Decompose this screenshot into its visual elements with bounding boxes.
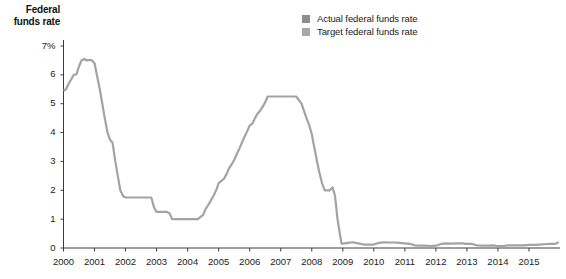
x-tick-label: 2015 — [509, 256, 549, 267]
data-series-line — [64, 59, 559, 246]
y-tick-label: 2 — [30, 184, 56, 195]
data-series-group — [64, 59, 559, 246]
y-tick-label: 1 — [30, 213, 56, 224]
y-tick-label: 6 — [30, 68, 56, 79]
y-tick-label: 7% — [30, 40, 56, 51]
line-chart-plot — [0, 0, 566, 279]
x-axis-ticks — [64, 248, 529, 252]
axis-lines — [64, 40, 561, 248]
y-tick-label: 4 — [30, 126, 56, 137]
y-tick-label: 0 — [30, 242, 56, 253]
y-tick-label: 3 — [30, 155, 56, 166]
y-tick-label: 5 — [30, 97, 56, 108]
chart-page: Federal funds rate Actual federal funds … — [0, 0, 566, 279]
